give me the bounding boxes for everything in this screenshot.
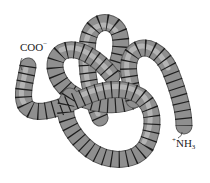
n-terminus-label: +NH3: [172, 137, 195, 151]
c-terminus-label: COO−: [20, 41, 47, 53]
n-terminus-base: NH: [176, 137, 192, 149]
protein-tube-diagram: [0, 0, 210, 183]
c-terminus-base: COO: [20, 41, 43, 53]
n-terminus-subscript: 3: [192, 143, 196, 151]
c-terminus-charge: −: [43, 40, 47, 48]
